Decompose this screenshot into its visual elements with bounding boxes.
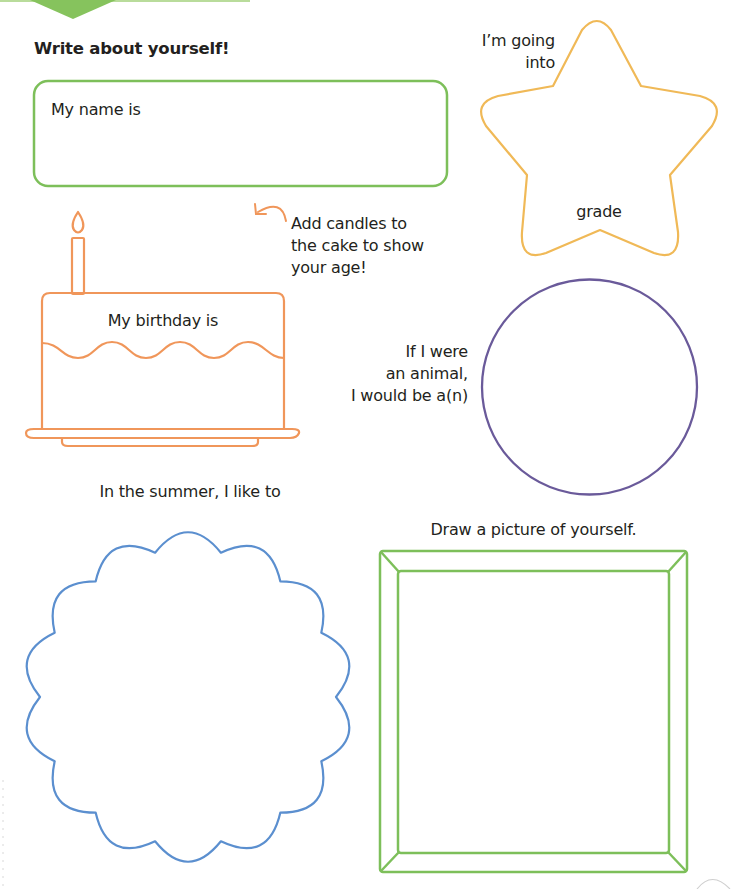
summer-input-area[interactable] xyxy=(50,545,325,835)
portrait-drawing-area[interactable] xyxy=(400,573,667,851)
cake-frosting-wave xyxy=(42,342,284,358)
animal-input-area[interactable] xyxy=(506,303,674,471)
grade-input-area[interactable] xyxy=(520,90,680,190)
cake-hint-line2: the cake to show xyxy=(291,235,424,257)
animal-label-line2: an animal, xyxy=(330,363,468,385)
summer-label: In the summer, I like to xyxy=(60,481,320,503)
birthday-input-area[interactable] xyxy=(44,360,282,428)
cake-plate xyxy=(26,429,299,438)
animal-label-line3: I would be a(n) xyxy=(330,385,468,407)
cake-hint-line1: Add candles to xyxy=(291,213,407,235)
name-input-area[interactable] xyxy=(36,83,445,184)
top-banner-triangle xyxy=(30,0,116,19)
cake-hint-line3: your age! xyxy=(291,257,366,279)
birthday-label: My birthday is xyxy=(42,310,284,332)
star-label-line1: I’m going xyxy=(440,30,555,52)
portrait-label: Draw a picture of yourself. xyxy=(380,519,687,541)
page-heading: Write about yourself! xyxy=(34,38,229,60)
star-grade-label: grade xyxy=(560,201,638,223)
star-label-line2: into xyxy=(440,52,555,74)
page-corner-circle xyxy=(697,880,730,889)
cake-plate-base xyxy=(62,438,258,446)
candle-drawing-area[interactable] xyxy=(44,200,282,292)
animal-label-line1: If I were xyxy=(330,341,468,363)
